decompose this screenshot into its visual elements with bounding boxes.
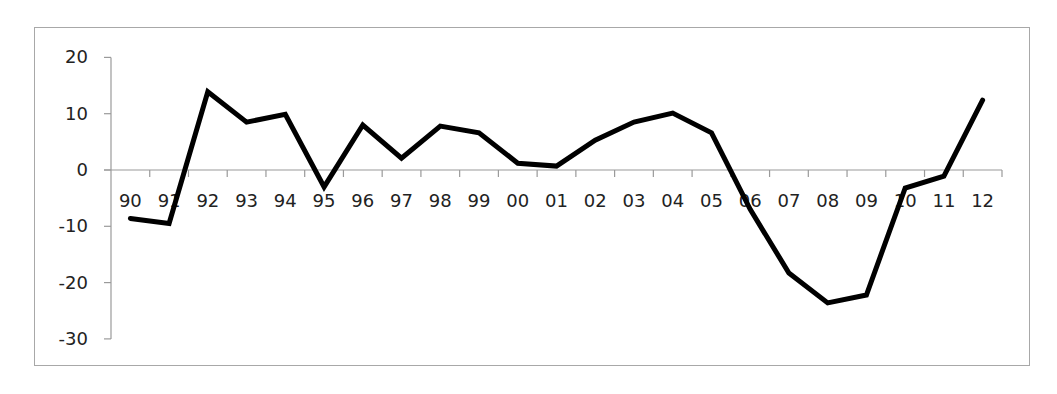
x-tick-label: 05 (700, 190, 723, 211)
y-tick-label: 0 (77, 159, 88, 180)
x-tick-label: 00 (506, 190, 529, 211)
x-tick-label: 01 (545, 190, 568, 211)
x-tick-label: 08 (816, 190, 839, 211)
x-tick-label: 97 (390, 190, 413, 211)
y-axis: 20100-10-20-30 (59, 46, 111, 349)
x-tick-label: 90 (119, 190, 142, 211)
x-tick-label: 96 (351, 190, 374, 211)
line-chart: 20100-10-20-30 9091929394959697989900010… (0, 0, 1057, 394)
y-tick-label: -10 (59, 215, 88, 236)
x-tick-label: 92 (196, 190, 219, 211)
x-tick-label: 99 (468, 190, 491, 211)
x-tick-label: 98 (429, 190, 452, 211)
x-tick-label: 03 (623, 190, 646, 211)
x-tick-label: 11 (932, 190, 955, 211)
x-tick-label: 07 (777, 190, 800, 211)
x-tick-label: 94 (274, 190, 297, 211)
y-tick-label: 10 (65, 103, 88, 124)
y-tick-label: -30 (59, 328, 88, 349)
x-tick-label: 04 (661, 190, 684, 211)
x-tick-label: 09 (855, 190, 878, 211)
x-tick-label: 02 (584, 190, 607, 211)
x-axis: 9091929394959697989900010203040506070809… (104, 170, 1002, 211)
x-tick-label: 95 (313, 190, 336, 211)
y-tick-label: 20 (65, 46, 88, 67)
x-tick-label: 12 (971, 190, 994, 211)
y-tick-label: -20 (59, 272, 88, 293)
x-tick-label: 93 (235, 190, 258, 211)
